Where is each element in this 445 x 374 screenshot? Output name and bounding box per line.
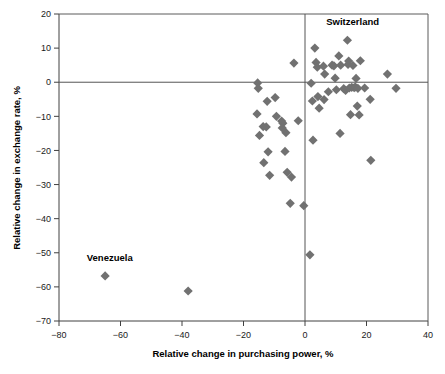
y-tick-label: 20 bbox=[41, 9, 51, 19]
y-tick-label: −40 bbox=[36, 214, 51, 224]
x-tick-label: −80 bbox=[51, 330, 66, 340]
data-point-label: Switzerland bbox=[326, 16, 379, 27]
y-tick-label: −30 bbox=[36, 180, 51, 190]
scatter-chart: −80−60−40−2002040 20100−10−20−30−40−50−6… bbox=[0, 0, 445, 374]
x-tick-label: 20 bbox=[361, 330, 371, 340]
y-tick-label: 0 bbox=[46, 77, 51, 87]
chart-page: −80−60−40−2002040 20100−10−20−30−40−50−6… bbox=[0, 0, 445, 374]
y-tick-label: −10 bbox=[36, 112, 51, 122]
data-point-label: Venezuela bbox=[87, 252, 134, 263]
chart-background bbox=[0, 0, 445, 374]
y-tick-label: 10 bbox=[41, 43, 51, 53]
x-tick-label: −60 bbox=[113, 330, 128, 340]
x-tick-label: −20 bbox=[236, 330, 251, 340]
x-axis-title: Relative change in purchasing power, % bbox=[152, 348, 334, 359]
x-tick-label: 0 bbox=[302, 330, 307, 340]
x-tick-label: 40 bbox=[423, 330, 433, 340]
y-tick-label: −60 bbox=[36, 282, 51, 292]
y-tick-label: −20 bbox=[36, 146, 51, 156]
x-tick-label: −40 bbox=[174, 330, 189, 340]
y-tick-label: −70 bbox=[36, 316, 51, 326]
y-axis-title: Relative change in exchange rate, % bbox=[11, 86, 22, 250]
y-tick-label: −50 bbox=[36, 248, 51, 258]
